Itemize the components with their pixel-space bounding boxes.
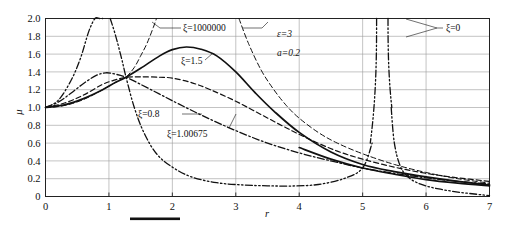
x-tick-label: 1 [106,201,111,212]
x-tick-label: 5 [360,201,365,212]
figure-background [0,0,505,230]
label-epsilon: ε=3 [277,29,292,39]
y-tick-label: 0.4 [27,156,41,167]
figure-root: 00.20.40.60.81.01.21.41.61.82.0 01234567… [0,0,505,230]
y-tick-label: 0.2 [27,173,40,184]
y-tick-label: 0 [35,191,40,202]
y-tick-label: 0.6 [27,138,40,149]
y-tick-label: 2.0 [27,13,40,24]
y-tick-label: 1.2 [27,84,40,95]
x-tick-label: 6 [423,201,428,212]
y-tick-label: 1.6 [27,49,40,60]
x-tick-label: 0 [43,201,48,212]
label-xi-0: ξ=0 [446,23,461,34]
y-tick-label: 1.8 [27,31,40,42]
y-tick-label: 1.0 [27,102,40,113]
x-tick-label: 3 [233,201,238,212]
x-tick-label: 4 [297,201,303,212]
label-xi-0p8: ξ=0.8 [138,109,160,120]
y-tick-label: 1.4 [27,67,41,78]
label-a: a=0.2 [277,48,300,58]
label-xi-1000000: ξ=1000000 [183,23,226,34]
label-xi-1p5: ξ=1.5 [181,56,203,67]
scan-artifact-bar [130,218,180,221]
x-tick-label: 7 [487,201,492,212]
label-xi-1p00675: ξ=1.00675 [167,129,208,140]
y-tick-labels: 00.20.40.60.81.01.21.41.61.82.0 [27,13,41,202]
y-axis-title: μ [13,109,24,115]
x-tick-label: 2 [170,201,175,212]
y-tick-label: 0.8 [27,120,40,131]
